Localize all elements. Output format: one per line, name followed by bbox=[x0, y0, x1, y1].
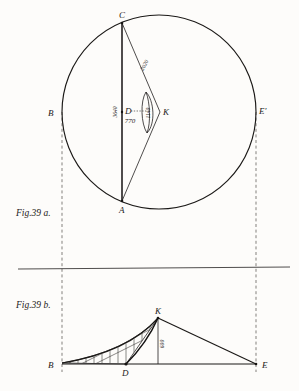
separator-rule bbox=[18, 267, 290, 269]
node-c bbox=[121, 22, 124, 25]
label-point-d-upper: D bbox=[124, 106, 132, 116]
node-d-lower bbox=[124, 362, 127, 365]
label-point-k-lower: K bbox=[154, 306, 162, 316]
caption-fig-39a: Fig.39 a. bbox=[15, 208, 51, 218]
label-point-d-lower: D bbox=[121, 368, 129, 378]
projection-lines bbox=[62, 112, 256, 372]
label-point-b-lower: B bbox=[48, 360, 54, 370]
caption-fig-39b: Fig.39 b. bbox=[15, 300, 51, 310]
edge-k-e bbox=[158, 318, 256, 364]
measure-chord-ck: 2020 bbox=[139, 59, 150, 72]
measure-lens-width: 1140 bbox=[145, 107, 151, 118]
label-point-a: A bbox=[118, 205, 125, 215]
plate-svg: C A B D K E' 2020 770 3640 1140 Fig.39 a… bbox=[0, 0, 299, 391]
node-e-lower bbox=[255, 363, 258, 366]
label-point-k-upper: K bbox=[162, 107, 170, 117]
hatch-lines-set-a bbox=[50, 291, 180, 384]
label-point-e-prime: E' bbox=[258, 106, 267, 116]
measure-segment-dk: 770 bbox=[125, 117, 136, 125]
label-point-c: C bbox=[119, 10, 126, 20]
node-d bbox=[121, 111, 123, 113]
circle-outline bbox=[62, 15, 256, 209]
fig-39b-group: B D K E 600 Fig.39 b. bbox=[15, 291, 268, 384]
label-point-e-lower: E bbox=[261, 360, 268, 370]
fig-39a-group: C A B D K E' 2020 770 3640 1140 Fig.39 a… bbox=[15, 10, 267, 218]
label-point-b-upper: B bbox=[48, 108, 54, 118]
node-a bbox=[121, 200, 124, 203]
node-k-lower bbox=[157, 317, 160, 320]
measure-segment-cd: 3640 bbox=[112, 106, 118, 118]
measure-height-kd: 600 bbox=[159, 340, 165, 349]
figure-plate: C A B D K E' 2020 770 3640 1140 Fig.39 a… bbox=[0, 0, 299, 391]
